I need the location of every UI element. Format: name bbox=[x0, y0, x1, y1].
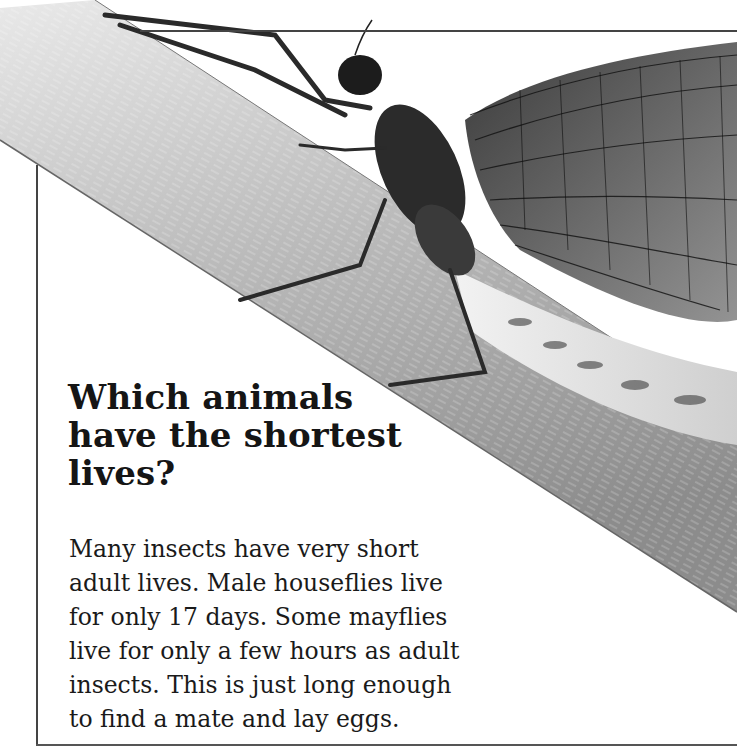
mayfly-photo bbox=[0, 0, 737, 620]
body-line: to find a mate and lay eggs. bbox=[69, 702, 529, 736]
heading-line: lives? bbox=[68, 454, 488, 492]
body-line: adult lives. Male houseflies live bbox=[69, 566, 529, 600]
body-line: Many insects have very short bbox=[69, 532, 529, 566]
page-heading: Which animals have the shortest lives? bbox=[68, 378, 488, 492]
frame-top-border bbox=[140, 30, 737, 32]
heading-line: Which animals bbox=[68, 378, 488, 416]
body-line: insects. This is just long enough bbox=[69, 668, 529, 702]
frame-left-border bbox=[36, 165, 38, 745]
frame-bottom-border bbox=[36, 744, 737, 746]
body-line: for only 17 days. Some mayflies bbox=[69, 600, 529, 634]
body-paragraph: Many insects have very short adult lives… bbox=[69, 532, 529, 736]
heading-line: have the shortest bbox=[68, 416, 488, 454]
body-line: live for only a few hours as adult bbox=[69, 634, 529, 668]
book-page: Which animals have the shortest lives? M… bbox=[0, 0, 737, 750]
